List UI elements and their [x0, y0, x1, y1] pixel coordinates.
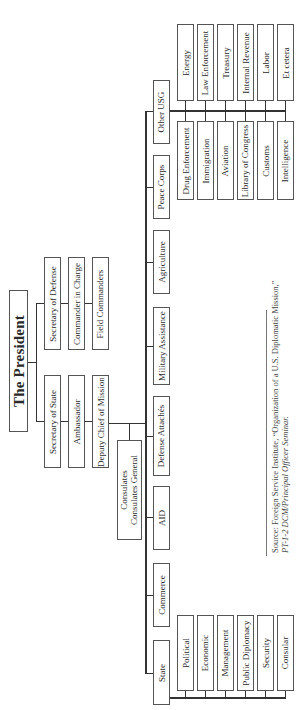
node-political: Political [177, 615, 194, 691]
node-label: Security [261, 638, 271, 668]
node-label: Defense Attachés [157, 405, 167, 468]
connector [36, 421, 44, 422]
node-label: Management [221, 630, 231, 677]
node-agriculture: Agriculture [153, 230, 170, 294]
source-line2: PT-1-2 DCM/Principal Officer Seminar. [280, 281, 290, 554]
node-label: Law Enforcement [201, 30, 211, 95]
connector [245, 690, 246, 698]
connector [129, 423, 130, 440]
node-label: Political [181, 638, 191, 668]
node-secretary-of-state: Secretary of State [44, 375, 61, 468]
node-law-enforcement: Law Enforcement [197, 24, 214, 101]
node-drug-enforcement: Drug Enforcement [177, 121, 194, 200]
connector [36, 303, 44, 304]
node-label: Secretary of State [48, 390, 58, 454]
node-field-commanders: Field Commanders [92, 257, 109, 350]
connector [185, 100, 186, 122]
node-label: Aviation [221, 145, 231, 176]
connector [285, 100, 286, 122]
node-management: Management [217, 615, 234, 691]
node-label: Immigration [201, 138, 211, 183]
connector [145, 436, 153, 437]
node-label: The President [14, 315, 24, 407]
connector [145, 673, 153, 674]
node-label: Ambassador [72, 399, 82, 444]
node-label: Deputy Chief of Mission [96, 377, 106, 467]
node-labor: Labor [257, 24, 274, 101]
connector [109, 423, 146, 424]
node-internal-revenue: Internal Revenue [237, 24, 254, 101]
node-library-of-congress: Library of Congress [237, 121, 254, 200]
connector [85, 303, 92, 304]
connector [145, 517, 153, 518]
node-label: Intelligence [281, 139, 291, 181]
node-label: Other USG [157, 92, 167, 133]
source-note: Source: Foreign Service Institute, “Orga… [270, 281, 290, 554]
connector [61, 421, 68, 422]
node-economic: Economic [197, 615, 214, 691]
node-label: Et cetera [281, 47, 291, 79]
node-other-usg: Other USG [153, 80, 170, 144]
node-label: Economic [201, 635, 211, 672]
node-label: Agriculture [157, 241, 167, 282]
source-line1: Source: Foreign Service Institute, “Orga… [270, 281, 280, 554]
node-label: Consulates Consulates General [120, 455, 140, 525]
node-label: Treasury [221, 47, 231, 79]
connector [245, 100, 246, 122]
node-label: Field Commanders [96, 269, 106, 338]
node-peace-corps: Peace Corps [153, 155, 170, 219]
node-et-cetera: Et cetera [277, 24, 294, 101]
connector [205, 690, 206, 698]
consulates-line2: Consulates General [130, 455, 140, 525]
node-commerce: Commerce [153, 563, 170, 627]
connector [145, 262, 153, 263]
consulates-line1: Consulates [120, 470, 130, 510]
node-label: Peace Corps [157, 165, 167, 210]
node-aid: AID [153, 486, 170, 550]
connector [225, 100, 226, 122]
node-customs: Customs [257, 121, 274, 200]
node-aviation: Aviation [217, 121, 234, 200]
node-label: Consular [281, 637, 291, 670]
node-secretary-of-defense: Secretary of Defense [44, 257, 61, 350]
node-label: Commander in Charge [72, 263, 82, 345]
main-trunk [145, 111, 147, 674]
node-label: Commerce [157, 575, 167, 615]
connector [85, 421, 92, 422]
node-label: Drug Enforcement [181, 127, 191, 194]
node-security: Security [257, 615, 274, 691]
node-intelligence: Intelligence [277, 121, 294, 200]
node-label: Public Diplomacy [241, 620, 251, 685]
node-label: Energy [181, 50, 191, 76]
node-treasury: Treasury [217, 24, 234, 101]
connector [265, 100, 266, 122]
node-public-diplomacy: Public Diplomacy [237, 615, 254, 691]
node-military-assistance: Military Assistance [153, 307, 170, 385]
node-label: Labor [261, 52, 271, 74]
node-president: The President [9, 290, 28, 432]
connector [145, 595, 153, 596]
node-deputy-chief-of-mission: Deputy Chief of Mission [92, 375, 109, 468]
node-label: Internal Revenue [241, 32, 251, 94]
node-commander-in-charge: Commander in Charge [68, 257, 85, 350]
connector [145, 346, 153, 347]
node-defense-attaches: Defense Attachés [153, 396, 170, 476]
node-consulates: Consulates Consulates General [117, 440, 142, 540]
source-rule [266, 310, 267, 556]
state-spine [169, 697, 286, 699]
node-ambassador: Ambassador [68, 375, 85, 468]
node-energy: Energy [177, 24, 194, 101]
node-consular: Consular [277, 615, 294, 691]
connector [145, 187, 153, 188]
node-label: Customs [261, 145, 271, 177]
connector [185, 690, 186, 698]
node-immigration: Immigration [197, 121, 214, 200]
node-state: State [153, 640, 170, 705]
node-label: Library of Congress [241, 124, 251, 196]
node-label: Military Assistance [157, 311, 167, 381]
node-label: State [157, 664, 167, 682]
node-label: AID [157, 510, 167, 526]
other-usg-spine [169, 110, 286, 112]
connector [61, 303, 68, 304]
connector [205, 100, 206, 122]
